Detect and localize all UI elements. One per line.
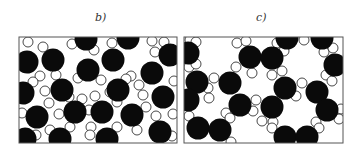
large-black-particle <box>149 121 172 144</box>
large-black-particle <box>159 44 182 67</box>
large-black-particle <box>274 126 297 149</box>
large-black-particle <box>177 89 200 112</box>
small-white-particle <box>267 70 277 80</box>
small-white-particle <box>231 62 241 72</box>
large-black-particle <box>209 119 232 142</box>
large-black-particle <box>14 128 37 151</box>
small-white-particle <box>107 38 117 48</box>
small-white-particle <box>151 111 161 121</box>
small-white-particle <box>44 98 54 108</box>
large-black-particle <box>261 96 284 119</box>
large-black-particle <box>261 47 284 70</box>
large-black-particle <box>51 79 74 102</box>
large-black-particle <box>296 126 319 149</box>
small-white-particle <box>150 47 160 57</box>
small-white-particle <box>138 90 148 100</box>
large-black-particle <box>49 128 72 151</box>
large-black-particle <box>117 27 140 50</box>
small-white-particle <box>38 42 48 52</box>
large-black-particle <box>77 59 100 82</box>
large-black-particle <box>187 117 210 140</box>
large-black-particle <box>152 86 175 109</box>
panel-c-label: c) <box>256 11 266 24</box>
large-black-particle <box>177 42 200 65</box>
panel-b-label: b) <box>95 11 106 24</box>
large-black-particle <box>102 49 125 72</box>
small-white-particle <box>85 130 95 140</box>
small-white-particle <box>327 76 337 86</box>
small-white-particle <box>96 75 106 85</box>
large-black-particle <box>239 46 262 69</box>
small-white-particle <box>90 91 100 101</box>
large-black-particle <box>64 101 87 124</box>
large-black-particle <box>229 94 252 117</box>
small-white-particle <box>40 86 50 96</box>
small-white-particle <box>277 66 287 76</box>
large-black-particle <box>276 27 299 50</box>
large-black-particle <box>107 79 130 102</box>
large-black-particle <box>12 82 35 105</box>
small-white-particle <box>232 38 242 48</box>
small-white-particle <box>54 109 64 119</box>
large-black-particle <box>75 28 98 51</box>
small-white-particle <box>23 37 33 47</box>
large-black-particle <box>316 99 339 122</box>
large-black-particle <box>96 128 119 151</box>
small-white-particle <box>51 70 61 80</box>
large-black-particle <box>91 101 114 124</box>
large-black-particle <box>141 62 164 85</box>
small-white-particle <box>134 80 144 90</box>
small-white-particle <box>251 95 261 105</box>
large-black-particle <box>121 104 144 127</box>
packing-diagram <box>0 0 359 153</box>
large-black-particle <box>311 27 334 50</box>
panel-b <box>12 27 182 151</box>
large-black-particle <box>42 49 65 72</box>
small-white-particle <box>257 116 267 126</box>
large-black-particle <box>274 77 297 100</box>
large-black-particle <box>219 72 242 95</box>
panel-c <box>177 27 347 149</box>
small-white-particle <box>297 78 307 88</box>
small-white-particle <box>204 93 214 103</box>
small-white-particle <box>247 68 257 78</box>
small-white-particle <box>209 73 219 83</box>
small-white-particle <box>132 125 142 135</box>
large-black-particle <box>26 106 49 129</box>
